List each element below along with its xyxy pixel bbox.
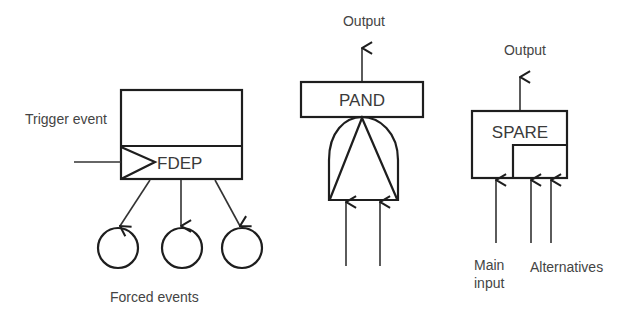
spare-inner-box bbox=[513, 145, 567, 178]
trigger-event-label: Trigger event bbox=[25, 111, 107, 127]
pand-output-label: Output bbox=[343, 13, 385, 29]
main-input-label-line2: input bbox=[474, 275, 504, 291]
alternatives-label: Alternatives bbox=[530, 259, 603, 275]
and-gate-shape bbox=[329, 117, 398, 200]
fdep-label: FDEP bbox=[157, 154, 202, 173]
forced-events-label: Forced events bbox=[110, 289, 199, 305]
forced-event-arrow-1 bbox=[120, 180, 150, 226]
spare-label: SPARE bbox=[492, 123, 548, 142]
main-input-label-line1: Main bbox=[474, 257, 504, 273]
pand-label: PAND bbox=[339, 91, 385, 110]
fdep-trigger-triangle-icon bbox=[121, 147, 155, 179]
forced-event-arrow-3 bbox=[215, 180, 240, 226]
pand-gate: Output PAND bbox=[301, 13, 423, 266]
forced-event-circle-3 bbox=[222, 228, 262, 268]
forced-event-circle-2 bbox=[162, 228, 202, 268]
dynamic-gates-diagram: Trigger event FDEP Forced events Output … bbox=[0, 0, 634, 317]
fdep-gate: Trigger event FDEP Forced events bbox=[25, 90, 262, 305]
spare-output-label: Output bbox=[504, 42, 546, 58]
forced-event-circle-1 bbox=[98, 228, 138, 268]
spare-gate: Output SPARE Main input Alternatives bbox=[472, 42, 603, 291]
